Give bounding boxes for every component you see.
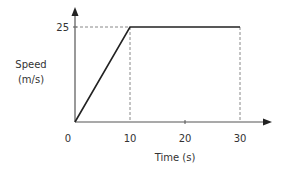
x-axis-label: Time (s): [154, 152, 196, 163]
y-axis-label-line1: Speed: [15, 59, 46, 70]
y-axis-arrow-icon: [72, 7, 79, 16]
x-tick-label-10: 10: [124, 133, 137, 144]
y-tick-label-25: 25: [56, 22, 69, 33]
speed-series-line: [75, 27, 240, 122]
speed-time-chart: 25 0 10 20 30 Speed (m/s) Time (s): [0, 0, 285, 170]
x-axis-arrow-icon: [263, 119, 272, 126]
y-axis-label-line2: (m/s): [18, 74, 44, 85]
x-tick-label-20: 20: [179, 133, 192, 144]
x-tick-label-30: 30: [234, 133, 247, 144]
x-tick-label-0: 0: [65, 133, 71, 144]
